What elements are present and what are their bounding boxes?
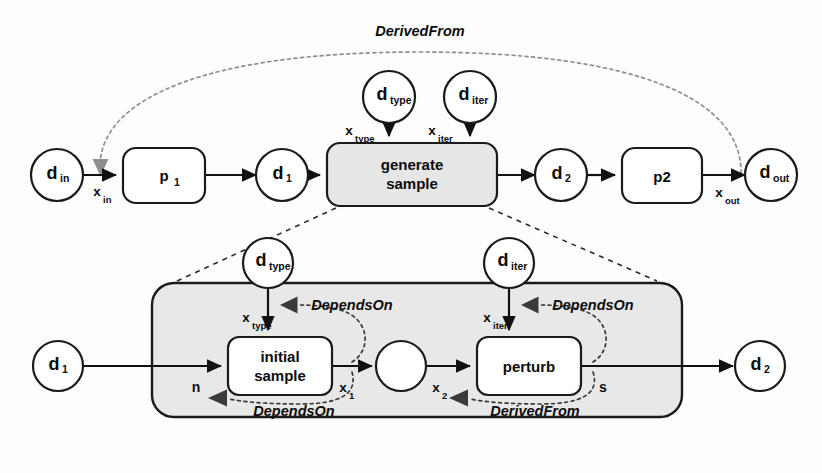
data-node-intermediate-shape[interactable] <box>376 341 426 391</box>
data-node-d-2-top[interactable]: d 2 <box>535 149 587 201</box>
data-node-d-iter-top-subscript: iter <box>472 94 488 106</box>
process-generate-sample-label-line1: generate <box>381 156 444 173</box>
data-node-d-1-detail-label: d <box>49 354 60 374</box>
process-p1-label: p <box>159 167 168 184</box>
data-node-d-in[interactable]: d in <box>31 149 83 201</box>
port-label-x-type-sub: type <box>355 133 375 144</box>
data-node-d-1-detail-subscript: 1 <box>62 363 68 375</box>
port-label-x-1-base: x <box>339 380 347 395</box>
process-p2[interactable]: p2 <box>622 148 702 203</box>
process-perturb-label: perturb <box>503 358 556 375</box>
port-label-x-type: x type <box>345 123 374 144</box>
process-initial-sample[interactable]: initial sample <box>228 337 332 395</box>
process-p1[interactable]: p 1 <box>123 148 205 203</box>
port-label-x-1-sub: 1 <box>349 390 355 401</box>
derived-from-top-label: DerivedFrom <box>375 23 465 39</box>
data-node-d-in-label: d <box>47 163 58 183</box>
port-label-x-2-base: x <box>432 380 440 395</box>
port-label-x-type-base: x <box>345 123 353 138</box>
data-node-d-2-top-subscript: 2 <box>565 172 571 184</box>
data-node-d-2-detail[interactable]: d 2 <box>735 341 785 391</box>
process-initial-sample-label-line2: sample <box>254 367 306 384</box>
data-node-d-1-top[interactable]: d 1 <box>256 149 308 201</box>
port-label-x-in: x in <box>93 184 111 205</box>
process-initial-sample-shape[interactable] <box>228 337 332 395</box>
port-label-n: n <box>192 379 201 395</box>
process-initial-sample-label-line1: initial <box>260 348 299 365</box>
data-node-d-1-top-label: d <box>273 163 284 183</box>
data-node-intermediate[interactable] <box>376 341 426 391</box>
data-node-d-type-top-subscript: type <box>390 94 412 106</box>
port-label-x-2-sub: 2 <box>442 390 447 401</box>
port-label-x-out-base: x <box>715 185 723 200</box>
data-node-d-out[interactable]: d out <box>745 149 797 201</box>
data-node-d-type-top-label: d <box>377 84 388 104</box>
data-node-d-iter-top[interactable]: d iter <box>444 71 496 123</box>
port-label-x-in-base: x <box>93 184 101 199</box>
depends-on-left-top-label: DependsOn <box>311 297 393 313</box>
port-label-x-iter-detail-base: x <box>483 310 491 325</box>
data-node-d-iter-detail-subscript: iter <box>511 260 527 272</box>
data-node-d-2-detail-subscript: 2 <box>764 363 770 375</box>
process-generate-sample[interactable]: generate sample <box>327 143 497 206</box>
port-label-x-type-detail-sub: type <box>252 320 272 331</box>
data-node-d-type-top[interactable]: d type <box>363 71 415 123</box>
data-node-d-iter-detail[interactable]: d iter <box>484 238 534 288</box>
process-p1-subscript: 1 <box>174 176 180 188</box>
data-node-d-iter-top-label: d <box>459 84 470 104</box>
port-label-x-iter-base: x <box>428 123 436 138</box>
derived-from-bottom-label: DerivedFrom <box>490 403 580 419</box>
port-label-x-iter-sub: iter <box>438 133 453 144</box>
port-label-x-out-sub: out <box>725 195 741 206</box>
port-label-x-type-detail-base: x <box>242 310 250 325</box>
derived-from-top-arrowhead <box>93 159 109 176</box>
port-label-x-in-sub: in <box>103 194 112 205</box>
diagram-canvas: DerivedFrom p 1 generate sample p2 d in … <box>0 0 822 473</box>
process-generate-sample-label-line2: sample <box>386 175 438 192</box>
data-node-d-1-top-subscript: 1 <box>286 172 292 184</box>
process-p2-label: p2 <box>653 168 671 185</box>
port-label-x-out: x out <box>715 185 740 206</box>
port-label-x-iter: x iter <box>428 123 453 144</box>
data-node-d-out-label: d <box>760 162 771 182</box>
data-node-d-in-subscript: in <box>60 172 69 184</box>
data-node-d-1-detail[interactable]: d 1 <box>33 341 83 391</box>
data-node-d-type-detail-subscript: type <box>269 260 291 272</box>
data-node-d-2-detail-label: d <box>751 354 762 374</box>
depends-on-bottom-label: DependsOn <box>253 403 335 419</box>
port-label-s: s <box>599 379 607 395</box>
provenance-diagram: DerivedFrom p 1 generate sample p2 d in … <box>0 0 822 473</box>
port-label-x-iter-detail-sub: iter <box>493 320 508 331</box>
data-node-d-type-detail[interactable]: d type <box>243 238 293 288</box>
data-node-d-type-detail-label: d <box>256 250 267 270</box>
data-node-d-iter-detail-label: d <box>498 250 509 270</box>
depends-on-right-top-label: DependsOn <box>552 297 634 313</box>
data-node-d-2-top-label: d <box>552 163 563 183</box>
data-node-d-out-subscript: out <box>773 172 790 184</box>
process-perturb[interactable]: perturb <box>477 337 581 395</box>
